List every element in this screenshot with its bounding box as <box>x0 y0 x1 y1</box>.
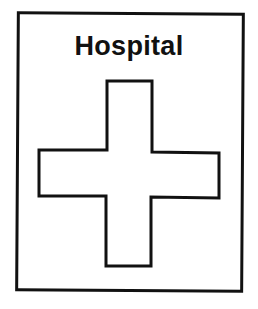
cross-icon <box>0 0 258 309</box>
